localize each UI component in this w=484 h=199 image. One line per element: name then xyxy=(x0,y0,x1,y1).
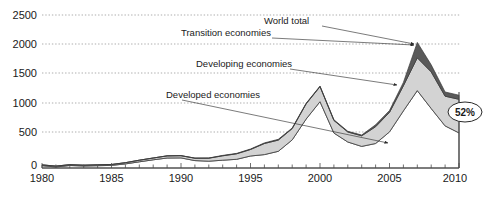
x-tick-label-2000: 2000 xyxy=(308,172,332,184)
annotation-transition-economies: Transition economies xyxy=(181,27,271,38)
y-tick-label-500: 500 xyxy=(19,126,37,138)
fdi-inflows-area-chart: 2500 2000 1500 1000 500 0 xyxy=(0,0,484,199)
annotation-world-total: World total xyxy=(264,15,309,26)
y-tick-label-2500: 2500 xyxy=(13,9,37,21)
y-tick-label-0: 0 xyxy=(31,159,37,171)
chart-container: 2500 2000 1500 1000 500 0 xyxy=(0,0,484,199)
x-tick-label-2010: 2010 xyxy=(443,172,467,184)
leader-developing-economies xyxy=(290,69,397,85)
x-tick-label-1980: 1980 xyxy=(30,172,54,184)
x-tick-label-1985: 1985 xyxy=(99,172,123,184)
x-tick-label-1995: 1995 xyxy=(238,172,262,184)
annotation-developed-economies: Developed economies xyxy=(166,89,260,100)
annotation-developing-economies: Developing economies xyxy=(196,58,292,69)
y-axis: 2500 2000 1500 1000 500 0 xyxy=(13,9,37,171)
x-axis-labels: 1980 1985 1990 1995 2000 2005 2010 xyxy=(30,172,467,184)
y-tick-label-1500: 1500 xyxy=(13,67,37,79)
callout-badge-label: 52% xyxy=(455,107,475,118)
y-tick-label-1000: 1000 xyxy=(13,97,37,109)
annotation-labels: World total Transition economies Develop… xyxy=(166,15,309,100)
x-tick-label-1990: 1990 xyxy=(169,172,193,184)
x-tick-label-2005: 2005 xyxy=(377,172,401,184)
share-callout: 52% xyxy=(448,102,482,122)
y-tick-label-2000: 2000 xyxy=(13,38,37,50)
